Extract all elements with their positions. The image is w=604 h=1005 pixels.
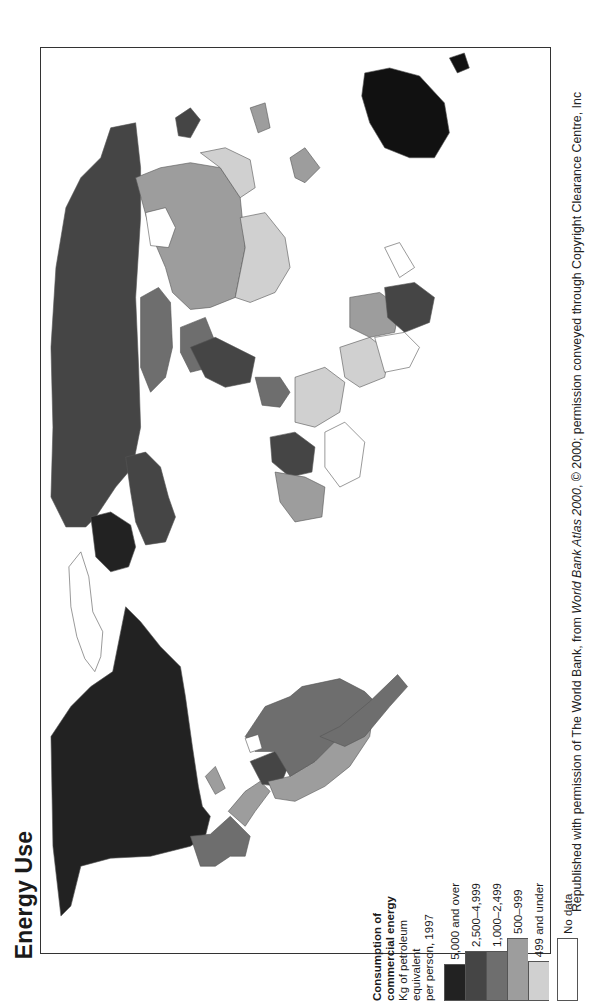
credit-line: Republished with permission of The World… (570, 92, 584, 912)
credit-prefix: Republished with permission of The World… (570, 614, 584, 912)
region-indonesia (290, 148, 320, 183)
region-australia (362, 68, 450, 158)
region-algeria (275, 472, 325, 522)
region-sahel (295, 367, 345, 427)
legend-swatch-2500-4999 (465, 951, 486, 1001)
legend-item: 500–999 (507, 883, 528, 1001)
legend-swatch-5000-plus (444, 964, 465, 1001)
region-india (235, 213, 290, 303)
legend-swatch-1000-2499 (486, 951, 507, 1001)
legend-subheading-line2: per person, 1997 (423, 883, 436, 1001)
region-central-america (228, 781, 270, 826)
region-philippines (250, 103, 270, 133)
map-title: Energy Use (11, 831, 38, 960)
region-madagascar (385, 243, 415, 278)
legend-label: 499 and under (533, 883, 545, 957)
region-europe (126, 452, 176, 545)
map-legend: Consumption of commercial energy Kg of p… (371, 883, 571, 1001)
region-japan (175, 108, 200, 138)
region-scandinavia (91, 512, 136, 572)
legend-swatch-500-999 (507, 938, 528, 1001)
map-frame: Consumption of commercial energy Kg of p… (40, 47, 551, 954)
region-west-africa (325, 422, 365, 487)
region-caribbean (205, 766, 225, 794)
legend-label: 5,000 and over (449, 883, 461, 960)
region-north-america (51, 607, 210, 916)
legend-item: 1,000–2,499 (486, 883, 507, 1001)
region-saudi (190, 337, 255, 387)
credit-source: World Bank Atlas 2000 (570, 488, 584, 614)
legend-label: 1,000–2,499 (491, 883, 503, 947)
region-greenland (69, 552, 103, 672)
legend-item: 5,000 and over (444, 883, 465, 1001)
legend-swatch-499-under (528, 961, 549, 1001)
legend-swatch-no-data (557, 938, 578, 1001)
credit-suffix: , © 2000; permission conveyed through Co… (570, 92, 584, 488)
region-central-asia (141, 287, 173, 392)
legend-heading-line2: commercial energy (384, 883, 397, 1001)
legend-label: 2,500–4,999 (470, 883, 482, 947)
world-map (41, 48, 550, 953)
region-libya (270, 432, 315, 477)
region-new-zealand (449, 53, 469, 73)
legend-item: 2,500–4,999 (465, 883, 486, 1001)
region-egypt (255, 377, 290, 407)
legend-heading-line1: Consumption of (371, 883, 384, 1001)
legend-item: 499 and under (528, 883, 549, 1001)
legend-subheading-line1: Kg of petroleum equivalent (397, 883, 423, 1001)
legend-label: 500–999 (512, 889, 524, 934)
